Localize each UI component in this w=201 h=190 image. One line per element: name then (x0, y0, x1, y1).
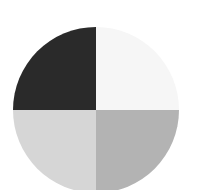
pie-slice-top-right (96, 27, 179, 110)
pie-slice-bottom-right (96, 110, 179, 190)
pie-chart (0, 0, 201, 190)
pie-slices (13, 27, 179, 190)
pie-slice-bottom-left (13, 110, 96, 190)
pie-slice-top-left (13, 27, 96, 110)
